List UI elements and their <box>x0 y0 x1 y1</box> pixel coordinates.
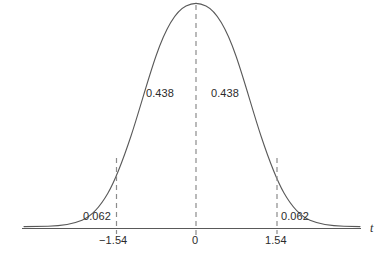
figure-canvas: 0.438 0.438 0.062 0.062 −1.54 0 1.54 t <box>0 0 392 261</box>
x-axis-variable-label: t <box>370 221 373 236</box>
x-tick-label-positive: 1.54 <box>265 234 287 246</box>
t-distribution-plot <box>0 0 392 261</box>
area-label-right-tail: 0.062 <box>281 210 309 222</box>
x-tick-label-negative: −1.54 <box>99 234 127 246</box>
area-label-right-center: 0.438 <box>211 87 239 99</box>
area-label-left-tail: 0.062 <box>83 210 111 222</box>
area-label-left-center: 0.438 <box>146 87 174 99</box>
density-curve <box>24 3 360 226</box>
x-tick-label-zero: 0 <box>192 234 198 246</box>
